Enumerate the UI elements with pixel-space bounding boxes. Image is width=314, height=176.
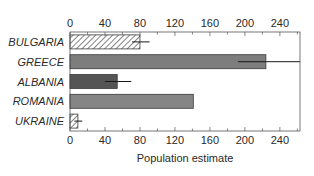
category-label: ROMANIA (13, 95, 64, 107)
top-tick-label: 160 (201, 17, 219, 29)
bars-group (70, 35, 300, 128)
category-label: UKRAINE (15, 115, 65, 127)
top-tick-label: 120 (166, 17, 184, 29)
bar-bulgaria (70, 35, 140, 49)
category-label: GREECE (18, 56, 65, 68)
bottom-tick-label: 160 (201, 134, 219, 146)
top-tick-label: 200 (236, 17, 254, 29)
bar-greece (70, 55, 266, 69)
bottom-tick-label: 200 (236, 134, 254, 146)
x-axis-label: Population estimate (137, 152, 234, 164)
bottom-tick-label: 80 (134, 134, 146, 146)
top-tick-label: 0 (67, 17, 73, 29)
bar-romania (70, 94, 193, 108)
category-label: BULGARIA (8, 36, 64, 48)
bottom-tick-label: 40 (99, 134, 111, 146)
population-bar-chart: 0040408080120120160160200200240240 BULGA… (0, 0, 314, 176)
top-tick-label: 80 (134, 17, 146, 29)
bottom-tick-label: 0 (67, 134, 73, 146)
bottom-tick-label: 240 (271, 134, 289, 146)
bottom-tick-label: 120 (166, 134, 184, 146)
category-labels: BULGARIAGREECEALBANIAROMANIAUKRAINE (8, 36, 64, 127)
category-label: ALBANIA (17, 76, 64, 88)
top-tick-label: 240 (271, 17, 289, 29)
top-tick-label: 40 (99, 17, 111, 29)
chart-canvas: 0040408080120120160160200200240240 BULGA… (0, 0, 314, 176)
